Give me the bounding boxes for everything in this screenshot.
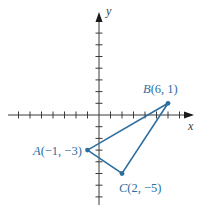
label-point-c: C(2, −5) <box>119 181 161 195</box>
x-axis-label: x <box>187 119 194 133</box>
label-c-coords: (2, −5) <box>127 181 161 195</box>
label-a-coords: (−1, −3) <box>41 144 82 158</box>
label-b-coords: (6, 1) <box>151 82 178 96</box>
label-point-a: A(−1, −3) <box>32 144 82 158</box>
vertex-b <box>166 101 171 106</box>
y-axis-label: y <box>105 4 112 18</box>
label-a-letter: A <box>32 144 41 158</box>
vertex-a <box>85 148 90 153</box>
label-point-b: B(6, 1) <box>143 82 178 96</box>
y-axis-arrow-icon <box>96 12 103 22</box>
x-axis-arrow-icon <box>184 112 194 119</box>
coordinate-plane: x y A(−1, −3) B(6, 1) C(2, −5) <box>0 0 206 217</box>
vertex-c <box>120 171 125 176</box>
